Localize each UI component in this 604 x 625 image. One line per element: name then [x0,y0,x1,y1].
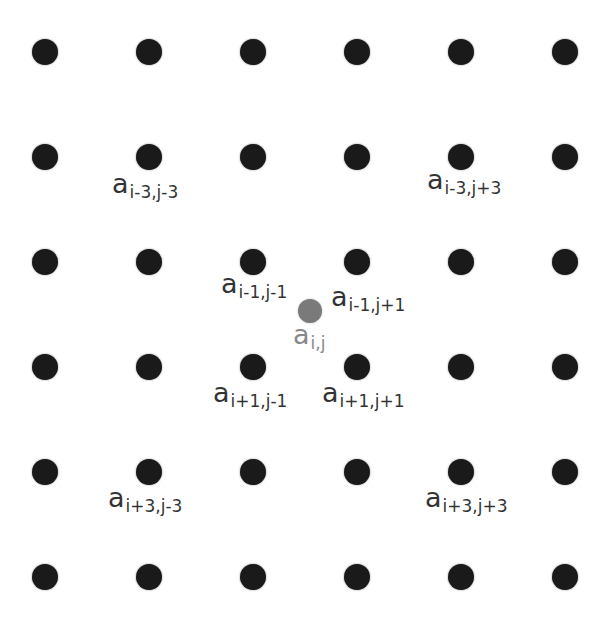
lattice-point [32,39,58,65]
label-a-i-j: ai,j [293,321,325,348]
label-a-i-plus-3-j-minus-3: ai+3,j-3 [108,484,182,511]
label-a-i-plus-1-j-plus-1: ai+1,j+1 [322,379,405,406]
lattice-point [448,354,474,380]
lattice-point [240,564,266,590]
lattice-point [344,144,370,170]
lattice-point [136,39,162,65]
lattice-point [344,459,370,485]
lattice-point [344,249,370,275]
lattice-point [552,354,578,380]
lattice-point [552,39,578,65]
lattice-point [552,564,578,590]
lattice-point [136,249,162,275]
lattice-point [32,144,58,170]
lattice-point [136,354,162,380]
label-a-i-minus-3-j-plus-3: ai-3,j+3 [427,166,501,193]
lattice-point [344,354,370,380]
lattice-point [136,144,162,170]
lattice-point [136,459,162,485]
lattice-point [32,564,58,590]
lattice-point [32,354,58,380]
lattice-point [32,459,58,485]
lattice-point [448,564,474,590]
lattice-point [344,564,370,590]
lattice-point [448,39,474,65]
lattice-point [552,249,578,275]
label-a-i-plus-3-j-plus-3: ai+3,j+3 [425,484,508,511]
lattice-point [32,249,58,275]
label-a-i-plus-1-j-minus-1: ai+1,j-1 [213,379,287,406]
lattice-point [240,144,266,170]
label-a-i-minus-1-j-minus-1: ai-1,j-1 [221,270,287,297]
lattice-point [552,459,578,485]
lattice-point [240,39,266,65]
lattice-point [240,459,266,485]
lattice-point [448,249,474,275]
lattice-point [448,459,474,485]
lattice-point [344,39,370,65]
lattice-point [552,144,578,170]
label-a-i-minus-1-j-plus-1: ai-1,j+1 [331,283,405,310]
lattice-point [240,354,266,380]
lattice-point [136,564,162,590]
label-a-i-minus-3-j-minus-3: ai-3,j-3 [112,170,178,197]
